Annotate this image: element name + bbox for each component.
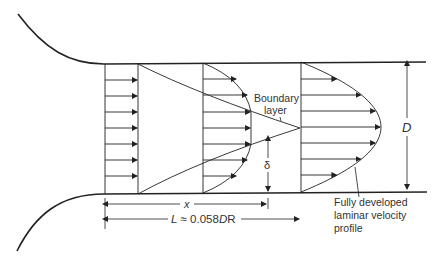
fully-developed-label-1: Fully developed [334, 196, 408, 208]
diameter-label: D [402, 120, 411, 135]
fully-developed-profile [301, 62, 381, 192]
uniform-inlet-profile [105, 64, 138, 194]
boundary-layer-label-1: Boundary [254, 92, 300, 104]
boundary-layer-edges [138, 64, 300, 194]
boundary-layer-label-2: layer [264, 104, 287, 116]
developing-profile [203, 63, 251, 193]
length-R: R [227, 213, 235, 225]
fully-developed-label-2: laminar velocity [334, 209, 407, 221]
top-wall [104, 62, 426, 64]
delta-label: δ [264, 159, 270, 171]
bottom-inlet-curve [17, 194, 104, 251]
length-eq: ≈ 0.058 [177, 213, 218, 225]
fully-developed-label-3: profile [334, 222, 363, 234]
pipe-flow-diagram: δ D x L ≈ 0.058DR Boundary layer Fully d… [0, 0, 444, 260]
length-D: D [219, 213, 227, 225]
length-label: L ≈ 0.058DR [171, 213, 236, 225]
boundary-layer-leader [280, 117, 281, 121]
boundary-layer-bottom [138, 128, 300, 194]
x-label: x [183, 198, 190, 210]
top-inlet-curve [18, 14, 104, 64]
bottom-wall [104, 192, 427, 194]
